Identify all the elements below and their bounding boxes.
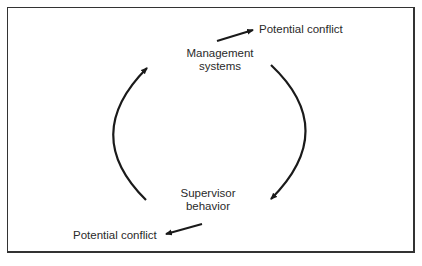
- node-supervisor-behavior: Supervisor behavior: [148, 187, 268, 213]
- outcome-potential-conflict-bottom: Potential conflict: [73, 229, 157, 242]
- arrow-to-conflict-bottom-icon: [166, 224, 202, 234]
- arrow-to-conflict-top-icon: [217, 30, 253, 41]
- outcome-potential-conflict-top: Potential conflict: [259, 23, 343, 36]
- node-label-line: Management: [160, 47, 280, 60]
- node-label-line: behavior: [148, 200, 268, 213]
- node-management-systems: Management systems: [160, 47, 280, 73]
- arc-arrow-left-icon: [113, 68, 147, 200]
- arc-arrow-right-icon: [271, 65, 306, 199]
- cycle-arrows: [0, 0, 422, 266]
- node-label-line: systems: [160, 60, 280, 73]
- node-label-line: Supervisor: [148, 187, 268, 200]
